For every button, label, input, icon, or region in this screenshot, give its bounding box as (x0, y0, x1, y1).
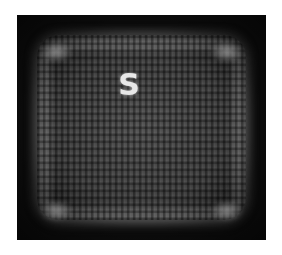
reconstructed-image: S (17, 15, 266, 240)
letter-glyph: S (114, 67, 144, 102)
vignette (17, 15, 266, 240)
